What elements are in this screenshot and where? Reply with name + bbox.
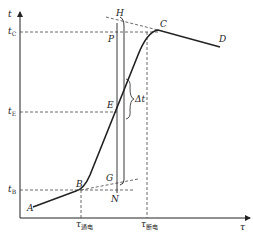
- point-A: A: [27, 204, 34, 213]
- point-N: N: [111, 195, 119, 204]
- point-E: E: [107, 101, 114, 110]
- delta-t-brace: [126, 79, 134, 119]
- delta-t-label: Δt: [135, 95, 145, 104]
- tick-tB: tB: [8, 185, 16, 195]
- line-HG: [120, 17, 124, 185]
- point-G: G: [106, 174, 113, 183]
- point-B: B: [76, 180, 83, 189]
- point-C: C: [160, 20, 167, 29]
- guide-lines: [20, 17, 158, 218]
- x-axis-label: τ: [240, 223, 245, 232]
- point-P: P: [108, 35, 114, 44]
- temperature-time-diagram: [0, 0, 253, 236]
- point-H: H: [116, 9, 124, 18]
- point-D: D: [219, 35, 226, 44]
- tick-tau-on: τ通电: [76, 220, 93, 230]
- tick-tau-off: τ断电: [141, 220, 158, 230]
- tick-tE: tE: [8, 107, 16, 117]
- y-axis-label: t: [8, 10, 12, 19]
- tick-tC: tC: [8, 27, 16, 37]
